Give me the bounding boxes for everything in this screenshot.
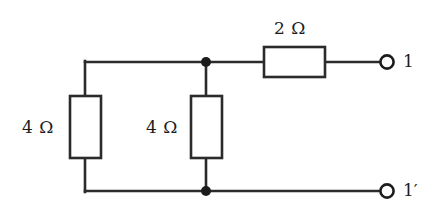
wires — [85, 61, 381, 192]
junction-dot-top-node — [201, 57, 211, 67]
resistor-bodies — [70, 47, 325, 158]
circuit-diagram: 2 Ω 4 Ω 4 Ω 1 1′ — [0, 0, 440, 219]
terminal-circle-1-prime — [380, 184, 393, 197]
terminal-1-prime-number: 1 — [403, 180, 414, 200]
terminal-circle-1 — [380, 55, 393, 68]
junction-dot-bottom-node — [201, 186, 211, 196]
resistor-4ohm-left-body — [70, 96, 101, 158]
resistor-4ohm-middle-body — [191, 96, 222, 158]
resistor-4ohm-left-label: 4 Ω — [22, 119, 54, 136]
circuit-schematic-canvas — [0, 0, 440, 219]
resistor-2ohm-body — [264, 47, 325, 77]
terminal-circles — [380, 55, 393, 197]
terminal-1-prime-label: 1′ — [403, 182, 418, 199]
resistor-2ohm-label: 2 Ω — [274, 20, 306, 37]
resistor-4ohm-middle-label: 4 Ω — [146, 119, 178, 136]
terminal-1-label: 1 — [403, 53, 414, 70]
terminal-prime-mark: ′ — [414, 180, 418, 200]
